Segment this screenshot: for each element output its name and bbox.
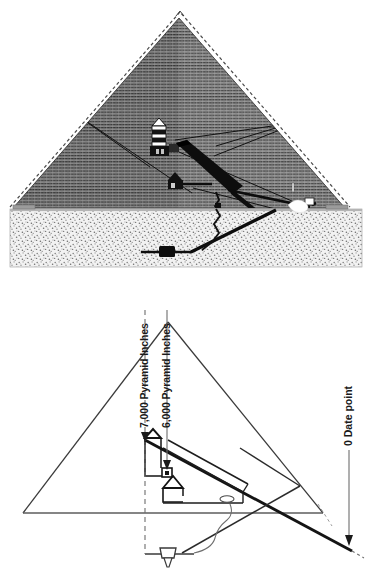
- lower-schematic-svg: 7,000 Pyramid Inches 6,000 Pyramid Inche…: [0, 290, 372, 581]
- air-shafts: [292, 183, 294, 192]
- upper-cross-section-panel: [0, 0, 372, 290]
- lower-panel-background: [0, 290, 372, 581]
- pyramid-inches-6000-label: 6,000 Pyramid Inches: [160, 323, 172, 428]
- bedrock: [10, 209, 362, 267]
- figure-root: 7,000 Pyramid Inches 6,000 Pyramid Inche…: [0, 0, 372, 581]
- grotto: [215, 203, 221, 208]
- upper-cross-section-svg: [0, 0, 372, 290]
- subterranean-chamber: [159, 246, 175, 257]
- zero-date-point-label: 0 Date point: [342, 385, 354, 446]
- grotto: [220, 496, 234, 502]
- pyramid-inches-7000-label: 7,000 Pyramid Inches: [138, 323, 150, 428]
- lower-schematic-panel: 7,000 Pyramid Inches 6,000 Pyramid Inche…: [0, 290, 372, 581]
